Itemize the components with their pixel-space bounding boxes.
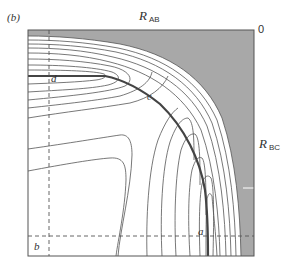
contour-plot (0, 0, 292, 269)
potential-energy-surface-figure: (b) RAB 0 RBC d c a b (0, 0, 292, 269)
panel-label: (b) (7, 11, 20, 23)
x-axis-symbol: R (139, 8, 147, 23)
origin-label: 0 (258, 23, 264, 35)
product-valley-contours (28, 108, 217, 256)
point-a-label: a (198, 225, 204, 237)
point-c-label: c (147, 91, 151, 102)
y-axis-label: RBC (259, 136, 280, 152)
point-b-label: b (34, 240, 40, 252)
x-axis-label: RAB (139, 8, 160, 24)
y-axis-subscript: BC (269, 143, 280, 152)
x-axis-subscript: AB (149, 15, 160, 24)
y-axis-symbol: R (259, 136, 267, 151)
point-d-label: d (51, 72, 57, 84)
shaded-region (28, 30, 254, 256)
